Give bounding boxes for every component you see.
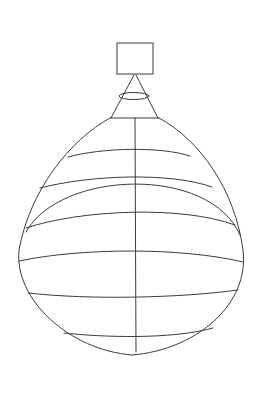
band-6 [64, 328, 213, 337]
inner-arc [26, 184, 240, 235]
band-4 [19, 251, 243, 262]
balloon-sketch [0, 0, 265, 412]
cone-right-edge [136, 75, 158, 118]
band-3 [26, 212, 235, 228]
band-5 [28, 290, 238, 297]
top-square [117, 43, 153, 74]
sketch-canvas [0, 0, 265, 412]
cone-ring [119, 93, 149, 100]
center-axis [135, 118, 136, 352]
band-1 [68, 149, 190, 157]
body-outline [19, 118, 244, 355]
band-2 [40, 177, 212, 188]
cone-left-edge [111, 75, 134, 118]
